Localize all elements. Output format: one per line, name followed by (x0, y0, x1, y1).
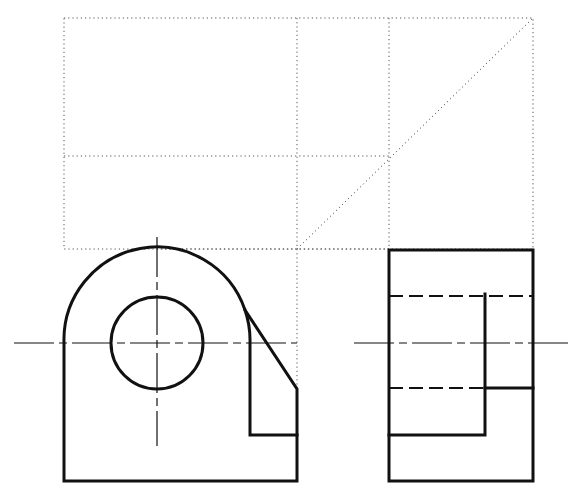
projection-frame (64, 18, 533, 249)
front-view (14, 237, 297, 481)
miter-line-45deg (297, 18, 533, 249)
projection-construction-lines (64, 18, 533, 390)
side-view-notch (389, 294, 485, 435)
front-view-outline (64, 247, 297, 481)
front-view-notch (245, 310, 297, 435)
side-view-outline (389, 250, 533, 481)
drawing-canvas (0, 0, 584, 500)
side-view (354, 250, 569, 481)
